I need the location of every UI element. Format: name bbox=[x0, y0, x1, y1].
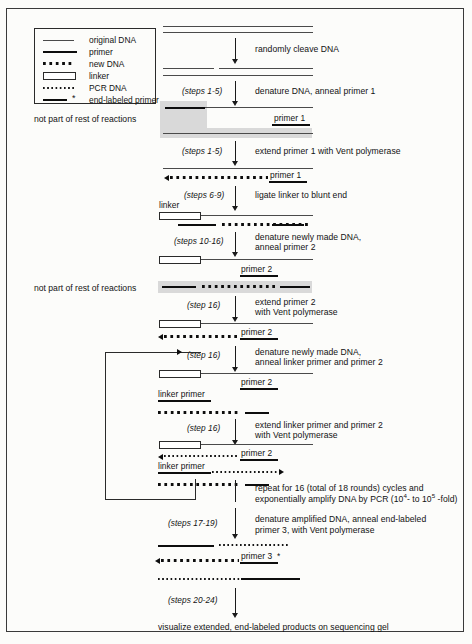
strand-original-bottom bbox=[163, 32, 313, 33]
primer-thick-stage5-right bbox=[272, 224, 304, 226]
flow-arrow-8-line bbox=[235, 419, 236, 441]
linker-box-stage8 bbox=[159, 370, 201, 378]
step-4-text: ligate linker to blunt end bbox=[255, 190, 347, 201]
pcr-dna-stage11-final bbox=[158, 578, 242, 580]
legend-item-linker: linker bbox=[35, 70, 155, 81]
feedback-loop-bottom bbox=[105, 499, 196, 500]
primer3-thick-final bbox=[241, 578, 300, 580]
step-1-text: randomly cleave DNA bbox=[255, 44, 339, 55]
flow-arrow-3-head bbox=[232, 161, 238, 166]
primer2-underline-c bbox=[240, 388, 278, 390]
flow-arrow-5-line bbox=[235, 232, 236, 253]
primer2-underline-d bbox=[240, 459, 278, 461]
legend-item-new-dna: new DNA bbox=[35, 58, 155, 69]
primer1-label-b: primer 1 bbox=[270, 170, 301, 180]
flow-arrow-6-head bbox=[232, 317, 238, 322]
step-11-text: visualize extended, end-labeled products… bbox=[158, 622, 389, 633]
flow-arrow-4-line bbox=[235, 186, 236, 207]
legend-box: original DNA primer new DNA linker bbox=[34, 28, 156, 104]
legend-label: linker bbox=[89, 71, 109, 81]
step-3-text: extend primer 1 with Vent polymerase bbox=[255, 146, 401, 157]
primer1-label-a: primer 1 bbox=[274, 113, 305, 123]
strand-template-stage7 bbox=[201, 323, 313, 324]
new-dna-stage7 bbox=[164, 335, 238, 338]
repeat-text-a: exponentially amplify DNA by PCR (10 bbox=[255, 494, 403, 504]
diagram-page: original DNA primer new DNA linker bbox=[0, 0, 472, 644]
strand-template-stage5 bbox=[201, 215, 313, 216]
small-dots-icon bbox=[43, 82, 83, 93]
step-10-text-line2: primer 3, with Vent polymerase bbox=[255, 525, 374, 536]
strand-template-stage8 bbox=[201, 373, 313, 374]
strand-original-top bbox=[163, 26, 313, 27]
primer2-label-b: primer 2 bbox=[241, 327, 272, 337]
strand-primer1-template bbox=[205, 107, 313, 108]
note-not-part-of-reactions-1: not part of rest of reactions bbox=[34, 114, 136, 124]
flow-arrow-1-head bbox=[232, 59, 238, 64]
legend-label: end-labeled primer bbox=[89, 95, 159, 105]
strand-template-stage4 bbox=[163, 168, 313, 169]
primer2-label-a: primer 2 bbox=[241, 264, 272, 274]
strand-cleaved-top-right bbox=[219, 68, 313, 69]
strand-template-stage9 bbox=[201, 444, 313, 445]
pcr-dna-stage9 bbox=[164, 455, 238, 457]
step-6-label: (step 16) bbox=[187, 300, 220, 310]
legend-label: original DNA bbox=[89, 35, 136, 45]
repeat-text-c: -fold) bbox=[435, 494, 457, 504]
step-9-text-line1: repeat for 16 (total of 18 rounds) cycle… bbox=[255, 483, 424, 494]
feedback-loop-left bbox=[105, 352, 106, 500]
step-5-text-line1: denature newly made DNA, bbox=[255, 232, 361, 243]
step-8-label: (step 16) bbox=[187, 423, 220, 433]
repeat-text-b: - to 10 bbox=[407, 494, 432, 504]
primer-thick-stage6-right bbox=[280, 286, 310, 288]
new-dna-stage8 bbox=[158, 411, 240, 414]
thick-line-asterisk-icon: * bbox=[43, 94, 83, 105]
linker-label: linker bbox=[159, 200, 179, 210]
primer1-thick bbox=[165, 107, 205, 109]
thick-line-icon bbox=[43, 46, 83, 57]
new-dna-stage6 bbox=[202, 285, 278, 288]
primer2-underline-a bbox=[240, 275, 278, 277]
feedback-loop-top bbox=[105, 352, 201, 353]
linker-primer-underline-b bbox=[158, 472, 211, 474]
primer2-underline-b bbox=[240, 338, 278, 340]
step-2-text: denature DNA, anneal primer 1 bbox=[255, 86, 375, 97]
step-5-text-line2: anneal primer 2 bbox=[255, 242, 315, 253]
note-not-part-of-reactions-2: not part of rest of reactions bbox=[34, 283, 136, 293]
pcr-dna-arrowhead-right bbox=[279, 469, 284, 475]
new-dna-arrowhead-left-2 bbox=[158, 334, 163, 340]
primer1-underline-a bbox=[272, 124, 310, 126]
legend-item-pcr-dna: PCR DNA bbox=[35, 82, 155, 93]
legend-item-primer: primer bbox=[35, 46, 155, 57]
step-3-label: (steps 1-5) bbox=[182, 146, 222, 156]
primer3-label: primer 3 bbox=[241, 551, 272, 561]
strand-cleaved-bottom bbox=[163, 75, 313, 76]
new-dna-stage4 bbox=[170, 176, 268, 179]
legend-label: PCR DNA bbox=[89, 83, 127, 93]
primer3-asterisk: * bbox=[277, 551, 280, 561]
primer3-thick-template bbox=[158, 545, 214, 547]
new-dna-arrowhead-left-1 bbox=[164, 175, 169, 181]
step-6-text-line1: extend primer 2 bbox=[255, 297, 315, 308]
thin-line-icon bbox=[43, 34, 83, 45]
primer-thick-stage5 bbox=[178, 224, 216, 226]
flow-arrow-1-line bbox=[235, 38, 236, 60]
step-5-label: (steps 10-16) bbox=[174, 236, 224, 246]
flow-arrow-7-head bbox=[232, 367, 238, 372]
legend-item-original-dna: original DNA bbox=[35, 34, 155, 45]
step-11-label: (steps 20-24) bbox=[168, 595, 218, 605]
step-8-text-line1: extend linker primer and primer 2 bbox=[255, 420, 383, 431]
flow-arrow-5-head bbox=[232, 252, 238, 257]
primer1-underline-b bbox=[269, 181, 307, 183]
strand-cleaved-top-left bbox=[163, 68, 214, 69]
strand-template-stage6 bbox=[201, 259, 313, 260]
feedback-loop-arrowhead bbox=[177, 349, 182, 355]
flow-arrow-2-head bbox=[232, 101, 238, 106]
primer2-label-d: primer 2 bbox=[241, 448, 272, 458]
linker-primer-label-a: linker primer bbox=[158, 389, 205, 399]
legend-label: new DNA bbox=[89, 59, 124, 69]
flow-arrow-11-head bbox=[232, 613, 238, 618]
flow-arrow-7-line bbox=[235, 346, 236, 368]
step-7-text-line1: denature newly made DNA, bbox=[255, 347, 361, 358]
shade-block-upper bbox=[160, 101, 207, 131]
primer-thick-stage8 bbox=[245, 412, 269, 414]
